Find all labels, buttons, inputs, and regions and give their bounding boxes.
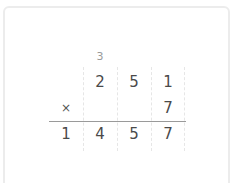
result-digit-tens: 5 (117, 125, 151, 143)
carry-digit: 3 (83, 50, 117, 64)
result-digit-thousands: 1 (49, 125, 83, 143)
multiplicand-digit-hundreds: 2 (83, 73, 117, 91)
multiply-operator: × (49, 99, 83, 117)
multiplicand-digit-tens: 5 (117, 73, 151, 91)
multiplier-digit: 7 (151, 99, 185, 117)
result-rule (49, 121, 186, 122)
multiplicand-digit-ones: 1 (151, 73, 185, 91)
result-digit-ones: 7 (151, 125, 185, 143)
result-digit-hundreds: 4 (83, 125, 117, 143)
